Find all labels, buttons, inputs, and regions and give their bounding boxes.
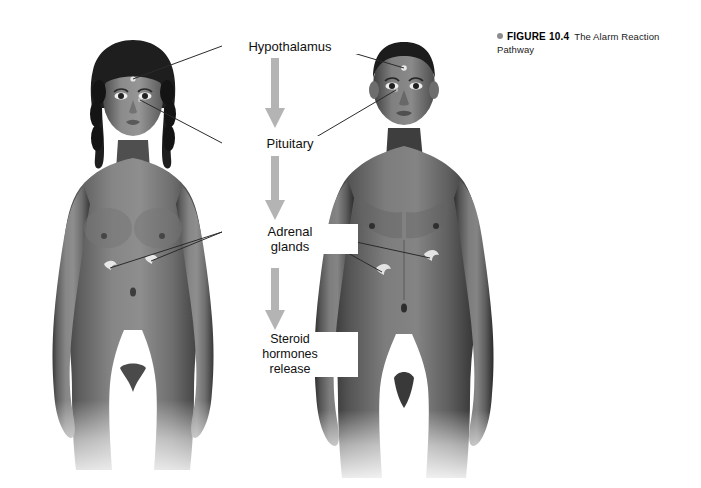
female-figure [50, 40, 214, 488]
figure-container: Hypothalamus Pituitary Adrenal glands St… [0, 0, 701, 488]
arrow-hypothalamus-to-pituitary [264, 58, 286, 130]
arrow-adrenal-to-steroid [264, 268, 286, 332]
label-adrenal-glands: Adrenal glands [222, 224, 358, 254]
hypothalamus-marker [401, 65, 407, 71]
male-figure [310, 42, 500, 488]
pituitary-marker [138, 98, 142, 102]
label-hypothalamus: Hypothalamus [222, 39, 358, 54]
label-pituitary: Pituitary [222, 136, 358, 151]
arrow-pituitary-to-adrenal [264, 156, 286, 222]
label-steroid-hormones-release: Steroid hormones release [222, 332, 358, 377]
pituitary-marker [394, 88, 398, 92]
hypothalamus-marker [130, 76, 135, 81]
